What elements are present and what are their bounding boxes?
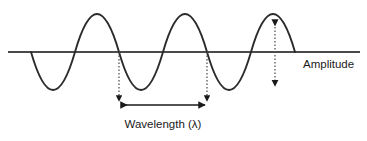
wave-diagram-canvas: Amplitude Wavelength (λ) [0, 0, 367, 141]
wave-diagram: Amplitude Wavelength (λ) [0, 0, 367, 141]
amplitude-label: Amplitude [303, 58, 354, 70]
wavelength-label: Wavelength (λ) [125, 118, 202, 130]
